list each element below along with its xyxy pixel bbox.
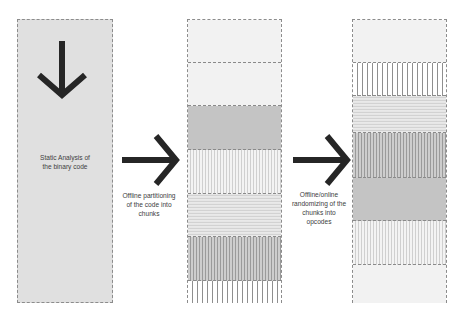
right-arrow-icon [291,133,351,189]
static-analysis-label: Static Analysis of the binary code [22,153,108,171]
chunk-segment [188,281,281,303]
opcode-segment [353,133,446,178]
opcodes-column [352,19,447,303]
chunk-segment [188,194,281,237]
chunk-segment [188,63,281,106]
opcode-segment [353,221,446,265]
down-arrow-icon [35,38,95,100]
chunk-segment [188,20,281,63]
randomizing-label: Offline/online randomizing of the chunks… [283,190,355,226]
chunk-segment [188,106,281,150]
opcode-segment [353,265,446,303]
opcode-segment [353,63,446,96]
partitioning-label: Offline partitioning of the code into ch… [112,191,186,218]
right-arrow-icon [120,133,180,189]
chunk-segment [188,150,281,194]
opcode-segment [353,96,446,133]
chunk-segment [188,237,281,281]
opcode-segment [353,20,446,63]
chunks-column [187,19,282,303]
opcode-segment [353,178,446,221]
